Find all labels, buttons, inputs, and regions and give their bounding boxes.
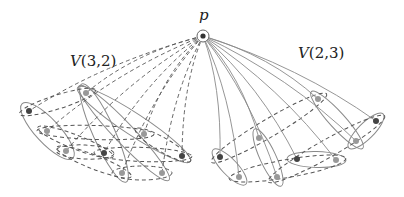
left-dashed-ellipse — [94, 146, 193, 164]
vertex-dot — [256, 135, 262, 141]
vertex-dot — [315, 96, 321, 102]
vertex-dot — [373, 118, 379, 124]
vertex-dot — [83, 90, 89, 96]
vertex-dot — [44, 128, 50, 134]
dashed-cone-line — [47, 36, 203, 131]
vertex-dot — [26, 108, 32, 114]
dashed-cone-line — [182, 36, 203, 156]
right-dashed-ellipse — [228, 149, 348, 187]
left-group-dashed-ellipses — [17, 83, 194, 183]
vertex-dot — [101, 150, 107, 156]
hypergraph-diagram: p V(3,2) V(2,3) — [0, 0, 404, 197]
vertex-dot — [294, 156, 300, 162]
vertex-dot — [119, 170, 125, 176]
vertex-dot — [217, 154, 223, 160]
left-group-label: V(3,2) — [70, 52, 116, 70]
vertex-dot — [63, 148, 69, 154]
dashed-cone-line — [162, 36, 203, 173]
vertex-dot — [274, 174, 280, 180]
apex-label: p — [199, 6, 209, 24]
vertex-dot — [236, 174, 242, 180]
vertex-dot — [159, 170, 165, 176]
right-group-label: V(2,3) — [298, 44, 344, 62]
vertex-dot — [179, 153, 185, 159]
vertex-dot — [141, 131, 147, 137]
solid-cone-line — [203, 36, 220, 157]
dashed-cone-line — [144, 36, 203, 134]
vertex-dot — [333, 157, 339, 163]
vertex-dot — [353, 138, 359, 144]
vertex-dots — [26, 90, 379, 180]
apex-vertex — [197, 30, 209, 42]
right-solid-ellipse — [343, 108, 388, 153]
